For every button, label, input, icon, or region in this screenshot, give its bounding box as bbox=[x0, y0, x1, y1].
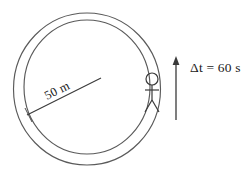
inner-track-edge-circle bbox=[24, 20, 150, 154]
arrow-head-icon bbox=[173, 56, 180, 65]
radius-start-tick bbox=[25, 108, 32, 122]
radius-length-label: 50 m bbox=[42, 78, 72, 102]
figure-canvas: 50 m Δt = 60 s bbox=[0, 0, 245, 176]
runner-head bbox=[146, 73, 158, 85]
time-interval-label: Δt = 60 s bbox=[190, 60, 241, 75]
runner-right-leg bbox=[152, 100, 159, 112]
direction-arrow bbox=[173, 56, 180, 120]
circular-track-figure: 50 m Δt = 60 s bbox=[0, 0, 245, 176]
outer-track-edge-circle bbox=[14, 13, 161, 165]
